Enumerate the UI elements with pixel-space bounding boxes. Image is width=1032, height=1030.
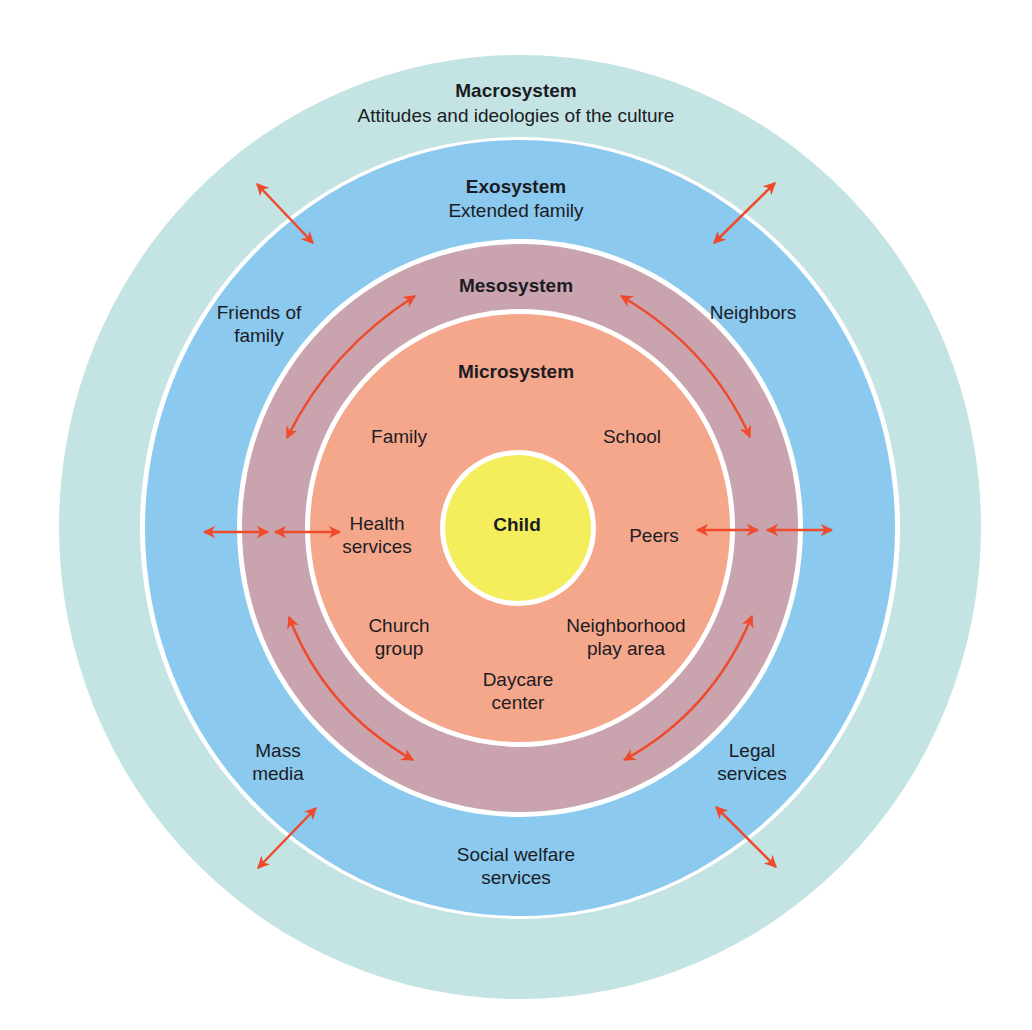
label-line: play area: [566, 637, 685, 660]
label-line: media: [252, 762, 304, 785]
micro-item-church-group: Church group: [368, 614, 429, 660]
micro-item-school: School: [603, 425, 661, 448]
exo-item-mass-media: Mass media: [252, 739, 304, 785]
exo-item-neighbors: Neighbors: [710, 301, 797, 324]
label-line: services: [717, 762, 787, 785]
exo-item-friends-of-family: Friends of family: [217, 301, 301, 347]
label-line: Friends of: [217, 301, 301, 324]
micro-item-peers: Peers: [629, 524, 679, 547]
label-line: Mass: [252, 739, 304, 762]
macrosystem-subtitle: Attitudes and ideologies of the culture: [358, 104, 675, 127]
label-line: Social welfare: [457, 843, 575, 866]
microsystem-title: Microsystem: [458, 360, 574, 383]
micro-item-daycare-center: Daycare center: [483, 668, 554, 714]
exo-item-extended-family: Extended family: [448, 199, 583, 222]
macrosystem-title: Macrosystem: [455, 79, 576, 102]
label-line: Church: [368, 614, 429, 637]
exo-item-legal-services: Legal services: [717, 739, 787, 785]
micro-item-neighborhood-play-area: Neighborhood play area: [566, 614, 685, 660]
label-line: center: [483, 691, 554, 714]
label-line: group: [368, 637, 429, 660]
label-line: Neighborhood: [566, 614, 685, 637]
exosystem-title: Exosystem: [466, 175, 566, 198]
label-line: family: [217, 324, 301, 347]
label-line: Health: [342, 512, 412, 535]
label-line: services: [457, 866, 575, 889]
micro-item-health-services: Health services: [342, 512, 412, 558]
label-line: services: [342, 535, 412, 558]
child-label: Child: [493, 513, 541, 536]
micro-item-family: Family: [371, 425, 427, 448]
label-line: Daycare: [483, 668, 554, 691]
exo-item-social-welfare-services: Social welfare services: [457, 843, 575, 889]
label-line: Legal: [717, 739, 787, 762]
mesosystem-title: Mesosystem: [459, 274, 573, 297]
